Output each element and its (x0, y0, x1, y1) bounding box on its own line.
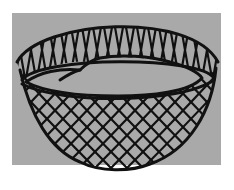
rim-strand (2, 10, 16, 90)
body-strand (200, 60, 234, 175)
body-strand (0, 60, 22, 175)
body-strand (200, 60, 234, 175)
rim-strand (233, 10, 234, 90)
body-strand (232, 60, 234, 175)
body-strand (216, 60, 234, 175)
body-strand (232, 60, 234, 175)
body-strand (0, 60, 6, 175)
rim-strand (0, 10, 5, 90)
basket-illustration (0, 0, 234, 190)
rim-strand (222, 10, 234, 90)
body-strand (216, 60, 234, 175)
rim-strand (222, 10, 234, 90)
body-strand (0, 60, 6, 175)
body-strand (0, 60, 22, 175)
rim-strand (2, 10, 16, 90)
rim-strand (0, 10, 5, 90)
rim-strand (233, 10, 234, 90)
